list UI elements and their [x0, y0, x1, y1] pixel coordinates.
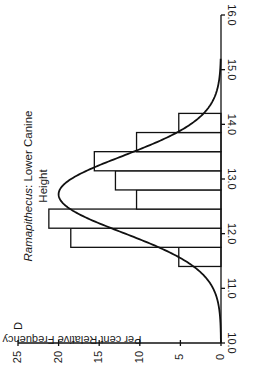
x-tick-label: 14.0	[226, 114, 238, 135]
x-tick-label: 12.0	[226, 223, 238, 244]
x-tick-label: 15.0	[226, 59, 238, 80]
histogram-bar	[179, 247, 221, 266]
y-tick-label: 15	[92, 351, 104, 363]
histogram-bar	[137, 190, 221, 209]
x-tick-label: 10.0	[226, 332, 238, 353]
histogram-bar	[137, 133, 221, 152]
chart-title-line1: Ramapithecus: Lower Canine	[22, 111, 34, 262]
y-tick-label: 10	[133, 351, 145, 363]
y-tick-label: 0	[214, 354, 226, 360]
histogram-chart: 10.011.012.013.014.015.016.0 0510152025 …	[0, 0, 255, 380]
y-tick-label: 5	[173, 354, 185, 360]
x-tick-label: 13.0	[226, 168, 238, 189]
title-rest: : Lower Canine	[22, 111, 34, 188]
y-axis-label: Per cent Relative Frequency	[2, 334, 141, 346]
histogram-bar	[115, 171, 221, 190]
histogram-bars	[49, 113, 221, 266]
x-tick-label: 16.0	[226, 4, 238, 25]
title-italic: Ramapithecus	[22, 188, 34, 262]
y-tick-label: 25	[11, 351, 23, 363]
histogram-bar	[71, 228, 221, 247]
x-tick-label: 11.0	[226, 278, 238, 299]
chart-title-line2: Height	[37, 169, 49, 203]
x-axis-ticks: 10.011.012.013.014.015.016.0	[221, 4, 238, 353]
histogram-bar	[94, 152, 221, 171]
panel-label: D	[12, 322, 24, 330]
y-tick-label: 20	[52, 351, 64, 363]
